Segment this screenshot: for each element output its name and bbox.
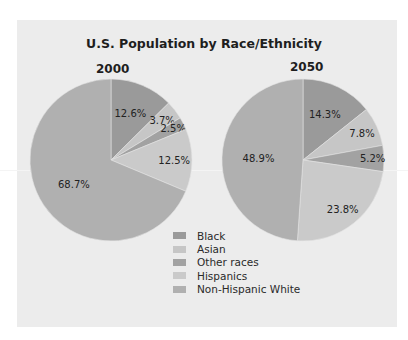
legend-swatch	[173, 232, 186, 239]
pie-2000: 12.6%3.7%2.5%12.5%68.7%	[30, 79, 192, 241]
legend-item-black: Black	[173, 229, 300, 242]
slice-label: 5.2%	[360, 153, 385, 164]
legend-label: Non-Hispanic White	[197, 283, 300, 295]
pie-slice-hispanics	[297, 160, 383, 241]
legend-label: Other races	[197, 256, 259, 268]
slice-label: 23.8%	[327, 204, 359, 215]
slice-label: 48.9%	[243, 153, 275, 164]
legend-item-hispanics: Hispanics	[173, 269, 300, 282]
legend-label: Black	[197, 230, 225, 242]
legend: Black Asian Other races Hispanics Non-Hi…	[173, 229, 300, 296]
legend-swatch	[173, 272, 186, 279]
legend-item-other-races: Other races	[173, 256, 300, 269]
slice-label: 12.5%	[158, 155, 190, 166]
slice-label: 68.7%	[58, 179, 90, 190]
legend-item-non-hispanic-white: Non-Hispanic White	[173, 283, 300, 296]
slice-label: 7.8%	[349, 128, 374, 139]
legend-item-asian: Asian	[173, 242, 300, 255]
legend-swatch	[173, 246, 186, 253]
legend-label: Asian	[197, 243, 226, 255]
legend-swatch	[173, 286, 186, 293]
pie-2050: 14.3%7.8%5.2%23.8%48.9%	[222, 79, 385, 241]
legend-swatch	[173, 259, 186, 266]
slice-label: 12.6%	[115, 108, 147, 119]
slice-label: 14.3%	[309, 109, 341, 120]
legend-label: Hispanics	[197, 270, 247, 282]
